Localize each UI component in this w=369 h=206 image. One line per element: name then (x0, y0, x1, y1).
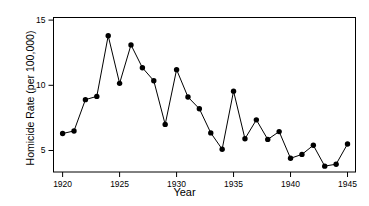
y-tick-label: 5 (41, 145, 46, 155)
data-point (208, 130, 213, 135)
data-point (162, 122, 167, 127)
data-point (117, 81, 122, 86)
data-point (197, 106, 202, 111)
data-point (83, 97, 88, 102)
data-point (322, 163, 327, 168)
y-tick-label: 15 (36, 15, 46, 25)
data-point (299, 152, 304, 157)
data-point (71, 128, 76, 133)
data-point (151, 78, 156, 83)
data-point (288, 156, 293, 161)
data-point (345, 141, 350, 146)
data-point (60, 131, 65, 136)
data-point (94, 94, 99, 99)
y-tick-label: 10 (36, 80, 46, 90)
data-point-markers (60, 33, 350, 169)
data-point (219, 146, 224, 151)
data-point (254, 117, 259, 122)
y-axis-title: Homicide Rate (per 100,000) (24, 13, 36, 183)
homicide-rate-line-chart: 51015 192019251930193519401945 Year Homi… (0, 0, 369, 206)
data-point (242, 136, 247, 141)
data-point (333, 161, 338, 166)
x-axis-title: Year (0, 186, 369, 198)
data-point (128, 42, 133, 47)
plot-area: 51015 192019251930193519401945 (0, 0, 369, 206)
data-point (311, 143, 316, 148)
data-series-line (63, 36, 348, 166)
data-point (106, 33, 111, 38)
data-point (185, 94, 190, 99)
data-point (140, 65, 145, 70)
data-point (174, 67, 179, 72)
data-point (265, 137, 270, 142)
y-axis-ticks: 51015 (36, 15, 53, 155)
data-point (276, 129, 281, 134)
data-point (231, 88, 236, 93)
